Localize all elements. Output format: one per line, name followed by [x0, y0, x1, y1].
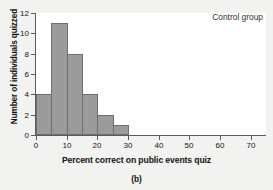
x-tick-label: 40 — [144, 141, 174, 150]
x-tick-label: 70 — [236, 141, 266, 150]
histogram-figure: Number of individuals quizzed 024681012 … — [0, 0, 273, 190]
y-tick-label: 4 — [0, 90, 29, 99]
x-tick — [97, 136, 98, 140]
x-tick — [220, 136, 221, 140]
y-tick — [31, 54, 35, 55]
y-tick — [31, 115, 35, 116]
x-axis-line — [35, 135, 266, 136]
x-tick — [159, 136, 160, 140]
y-tick — [31, 74, 35, 75]
histogram-bar — [113, 125, 129, 135]
x-tick — [36, 136, 37, 140]
x-tick — [128, 136, 129, 140]
y-tick-label: 6 — [0, 70, 29, 79]
y-tick-label: 12 — [0, 9, 29, 18]
histogram-bar — [67, 54, 83, 135]
x-tick — [251, 136, 252, 140]
y-tick-label: 8 — [0, 50, 29, 59]
histogram-bar — [97, 115, 113, 135]
x-tick-label: 20 — [82, 141, 112, 150]
control-group-annotation: Control group — [212, 12, 263, 22]
histogram-bar — [51, 23, 67, 135]
x-tick — [67, 136, 68, 140]
x-tick — [189, 136, 190, 140]
figure-caption: (b) — [0, 174, 273, 184]
y-tick-label: 10 — [0, 29, 29, 38]
histogram-bar — [82, 94, 98, 135]
histogram-bar — [36, 94, 52, 135]
y-tick-label: 2 — [0, 111, 29, 120]
x-tick-label: 30 — [113, 141, 143, 150]
x-tick-label: 50 — [174, 141, 204, 150]
x-tick-label: 60 — [205, 141, 235, 150]
y-tick — [31, 13, 35, 14]
y-tick — [31, 135, 35, 136]
y-tick-label: 0 — [0, 131, 29, 140]
x-tick-label: 10 — [52, 141, 82, 150]
y-tick — [31, 33, 35, 34]
y-tick — [31, 94, 35, 95]
x-axis-title: Percent correct on public events quiz — [0, 155, 273, 165]
x-tick-label: 0 — [21, 141, 51, 150]
